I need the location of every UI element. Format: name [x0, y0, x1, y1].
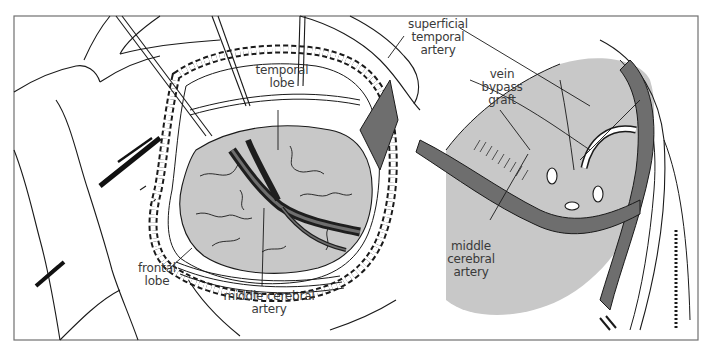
label-superficial-temporal-artery: superficial temporal artery: [400, 18, 476, 57]
illustration-stage: temporal lobe frontal lobe middle cerebr…: [0, 0, 708, 350]
label-frontal-lobe: frontal lobe: [126, 262, 188, 288]
label-vein-bypass-graft: vein bypass graft: [476, 68, 528, 107]
label-middle-cerebral-artery-right: middle cerebral artery: [438, 240, 504, 279]
label-line: lobe: [246, 77, 318, 90]
illustration-artwork: [0, 0, 708, 350]
label-line: graft: [476, 94, 528, 107]
label-middle-cerebral-artery-left: middle cerebral artery: [214, 290, 324, 316]
label-line: lobe: [126, 275, 188, 288]
label-temporal-lobe: temporal lobe: [246, 64, 318, 90]
label-line: artery: [400, 44, 476, 57]
label-line: artery: [214, 303, 324, 316]
label-line: artery: [438, 266, 504, 279]
